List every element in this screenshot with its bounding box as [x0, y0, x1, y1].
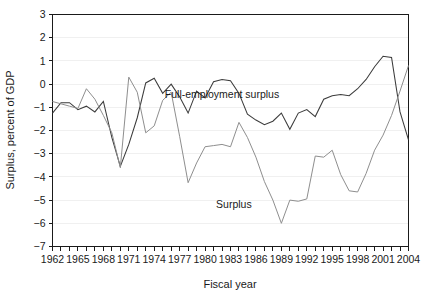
x-tick-label: 2001: [371, 253, 395, 265]
y-tick-label: −2: [34, 124, 46, 136]
x-tick-label: 1971: [117, 253, 141, 265]
y-tick-label: 2: [40, 31, 46, 43]
x-axis-tick-labels: 1962196519681971197419771980198319861989…: [41, 253, 421, 265]
x-axis-ticks: [53, 247, 409, 251]
x-tick-label: 1980: [193, 253, 217, 265]
chart-container: 3210−1−2−3−4−5−6−7 196219651968197119741…: [0, 0, 427, 296]
x-tick-label: 1974: [143, 253, 167, 265]
x-tick-label: 1968: [92, 253, 116, 265]
y-tick-label: −4: [34, 171, 46, 183]
y-axis-title: Surplus, percent of GDP: [4, 70, 16, 189]
y-tick-label: −1: [34, 101, 46, 113]
x-tick-label: 1995: [321, 253, 345, 265]
x-tick-label: 1992: [295, 253, 319, 265]
x-tick-label: 1962: [41, 253, 65, 265]
x-tick-label: 1989: [270, 253, 294, 265]
y-tick-label: −6: [34, 217, 46, 229]
y-tick-label: 1: [40, 55, 46, 67]
x-axis-title: Fiscal year: [203, 278, 257, 290]
y-tick-label: −7: [34, 240, 46, 252]
y-axis-tick-labels: 3210−1−2−3−4−5−6−7: [34, 8, 46, 252]
y-tick-label: −5: [34, 194, 46, 206]
series-annotation: Surplus: [216, 198, 252, 210]
gridlines: [53, 38, 409, 224]
y-tick-label: 0: [40, 78, 46, 90]
x-tick-label: 1977: [168, 253, 192, 265]
x-tick-label: 1983: [219, 253, 243, 265]
y-tick-label: −3: [34, 147, 46, 159]
series-annotation: Full-employment surplus: [165, 88, 279, 100]
y-tick-label: 3: [40, 8, 46, 20]
surplus-percent-of-gdp-line-chart: 3210−1−2−3−4−5−6−7 196219651968197119741…: [0, 0, 427, 296]
series-line-full-employment-surplus: [53, 56, 409, 166]
x-tick-label: 1986: [244, 253, 268, 265]
x-tick-label: 2004: [397, 253, 421, 265]
x-tick-label: 1965: [66, 253, 90, 265]
x-tick-label: 1998: [346, 253, 370, 265]
y-axis-ticks: [49, 15, 53, 247]
